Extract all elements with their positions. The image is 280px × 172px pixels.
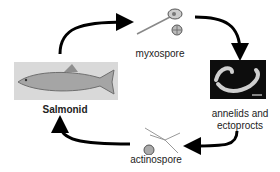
annelids-label-line2: ectoprocts	[204, 120, 276, 132]
annelids-label-line1: annelids and	[204, 108, 276, 120]
annelid-image	[210, 60, 266, 99]
arrow-myxospore-to-annelids	[195, 17, 240, 52]
salmonid-image	[14, 62, 118, 100]
myxospore-label: myxospore	[130, 48, 190, 60]
actinospore-illustration	[140, 125, 185, 155]
arrow-actinospore-to-salmonid	[60, 124, 130, 144]
actinospore-label: actinospore	[128, 154, 184, 166]
arrow-annelids-to-actinospore	[192, 131, 237, 146]
arrow-salmonid-to-myxospore	[60, 22, 125, 54]
salmonid-label: Salmonid	[30, 104, 100, 116]
myxospore-illustration	[135, 6, 185, 36]
